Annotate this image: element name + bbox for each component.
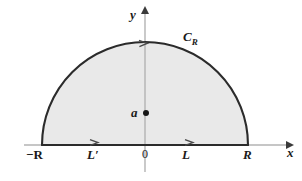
arc-label-base: C <box>183 29 192 44</box>
x-axis-label: x <box>287 146 294 159</box>
left-endpoint-label: −R <box>26 148 43 161</box>
figure-canvas <box>0 0 302 181</box>
left-segment-label: L′ <box>87 148 99 161</box>
right-endpoint-label: R <box>243 148 252 161</box>
y-axis-label: y <box>130 8 136 21</box>
pole-label: a <box>131 106 138 119</box>
contour-diagram: y x 0 −R R L′ L a CR <box>0 0 302 181</box>
pole-point-dot <box>143 110 149 116</box>
right-segment-label: L <box>182 148 190 161</box>
origin-label: 0 <box>142 148 148 160</box>
arc-label-subscript: R <box>192 37 198 47</box>
arc-label: CR <box>183 30 198 47</box>
